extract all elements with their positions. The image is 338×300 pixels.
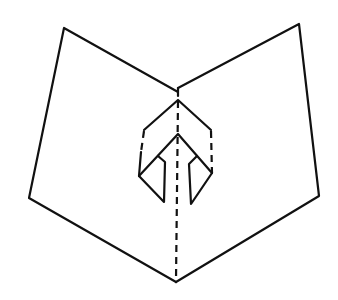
left-card-panel — [29, 28, 178, 282]
right-card-panel — [176, 24, 319, 282]
popup-right-flap — [189, 156, 212, 204]
card-drawing — [0, 0, 338, 300]
center-fold-line — [176, 101, 178, 280]
popup-left-side-fold — [141, 131, 144, 152]
popup-card-diagram — [0, 0, 338, 300]
popup-right-side-fold — [211, 131, 212, 173]
popup-inner-chevron — [139, 134, 212, 176]
popup-left-side — [139, 152, 141, 176]
